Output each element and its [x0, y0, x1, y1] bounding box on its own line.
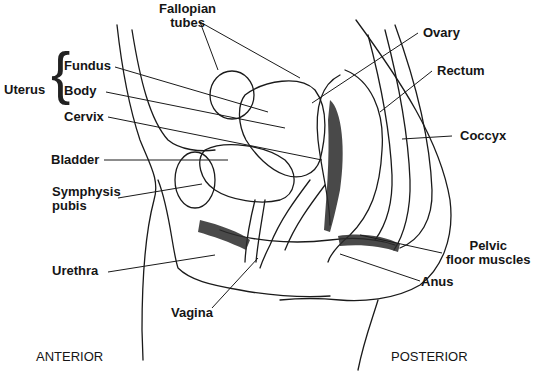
label-anus: Anus — [421, 275, 454, 289]
posterior-body-contour — [280, 20, 451, 301]
leader-urethra — [108, 255, 215, 272]
label-symphysis-pubis: Symphysis pubis — [52, 185, 121, 213]
leader-fundus — [115, 67, 268, 112]
label-fundus: Fundus — [64, 59, 111, 73]
label-bladder: Bladder — [51, 153, 99, 167]
label-posterior: POSTERIOR — [391, 350, 468, 364]
leader-fallopian — [200, 22, 300, 78]
label-pelvic-floor-muscles: Pelvic floor muscles — [446, 239, 531, 267]
leader-anus — [340, 254, 420, 281]
label-anterior: ANTERIOR — [36, 350, 103, 364]
label-ovary: Ovary — [423, 26, 460, 40]
vagina-shape — [260, 180, 310, 268]
label-body: Body — [64, 84, 97, 98]
label-uterus: Uterus — [4, 83, 45, 97]
label-rectum: Rectum — [437, 64, 485, 78]
label-fallopian-tubes: Fallopian tubes — [159, 2, 216, 30]
label-vagina: Vagina — [171, 306, 213, 320]
uterus-shape — [239, 81, 325, 177]
leader-ovary — [312, 33, 418, 103]
leader-body — [106, 92, 285, 128]
label-cervix: Cervix — [64, 110, 104, 124]
ovary-shape — [210, 71, 254, 119]
leader-rectum — [380, 71, 432, 112]
leader-vagina — [212, 258, 258, 308]
label-coccyx: Coccyx — [460, 129, 506, 143]
label-urethra: Urethra — [52, 264, 98, 278]
